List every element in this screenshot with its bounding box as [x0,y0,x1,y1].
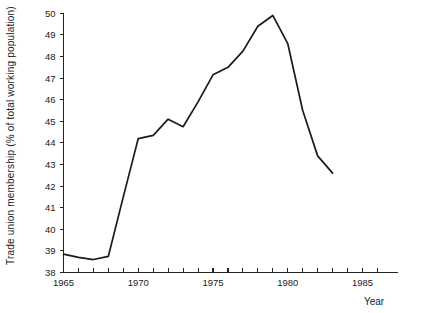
y-tick-label: 39 [45,245,56,256]
y-axis-title: Trade union membership (% of total worki… [5,6,16,265]
y-tick-label: 44 [45,137,56,148]
y-tick-label: 40 [45,224,56,235]
y-tick-label: 48 [45,51,56,62]
x-tick-label: 1975 [202,277,223,288]
x-axis-tick-labels: 19651970197519801985 [53,277,373,288]
y-tick-label: 41 [45,202,56,213]
x-tick-label: 1980 [277,277,298,288]
y-axis-tick-labels: 38394041424344454647484950 [45,8,56,278]
y-axis-ticks [60,13,64,272]
line-chart: 38394041424344454647484950 1965197019751… [0,0,423,313]
y-tick-label: 43 [45,159,56,170]
x-tick-label: 1965 [53,277,74,288]
x-tick-label: 1985 [352,277,373,288]
y-tick-label: 50 [45,8,56,19]
data-series-line [64,15,333,259]
x-tick-label: 1970 [128,277,149,288]
x-axis-title: Year [364,296,385,307]
y-tick-label: 47 [45,73,56,84]
y-tick-label: 42 [45,181,56,192]
x-axis-ticks [64,268,378,273]
y-tick-label: 45 [45,116,56,127]
chart-figure: 38394041424344454647484950 1965197019751… [0,0,423,313]
y-tick-label: 46 [45,94,56,105]
y-tick-label: 49 [45,29,56,40]
